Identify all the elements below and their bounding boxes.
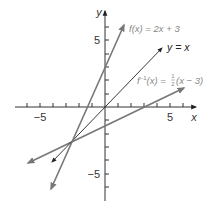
inverse-label-mid: (x) =: [146, 75, 166, 86]
inverse-label-num: 1: [171, 73, 175, 79]
x-tick-label-5: 5: [167, 111, 173, 123]
x-axis-label: x: [190, 111, 197, 123]
function-label: f(x) = 2x + 3: [129, 23, 180, 34]
y-tick-label-5: 5: [94, 34, 100, 46]
identity-label: y = x: [166, 41, 190, 53]
x-tick-label-neg5: −5: [34, 111, 47, 123]
svg-text:f−1(x) =: f−1(x) =: [137, 75, 166, 86]
inverse-function-label: f−1(x) = 1 2 (x − 3): [137, 73, 203, 87]
inverse-label-tail: (x − 3): [176, 75, 203, 86]
y-axis-label: y: [95, 6, 103, 18]
inverse-function-line: [28, 88, 184, 163]
y-tick-label-neg5: −5: [87, 168, 100, 180]
inverse-label-den: 2: [171, 81, 175, 87]
coordinate-plane: −5 5 5 −5 x y f(x) = 2x + 3 y = x f−1(x)…: [0, 0, 213, 208]
